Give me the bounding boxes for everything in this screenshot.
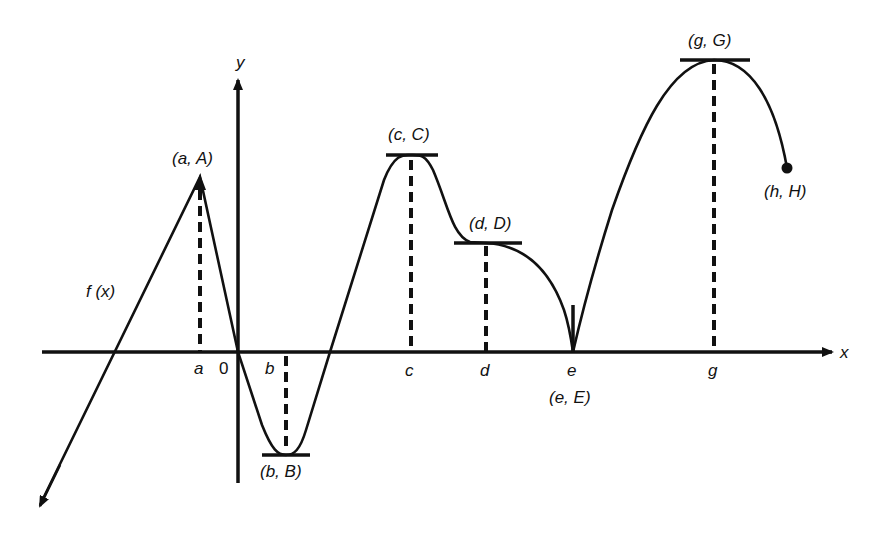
tick-label-e: e <box>567 361 576 380</box>
point-label-c: (c, C) <box>388 125 430 144</box>
tick-label-b: b <box>265 359 274 378</box>
peak-a-marker <box>194 174 206 190</box>
point-label-e: (e, E) <box>549 388 591 407</box>
function-label: f (x) <box>86 282 115 301</box>
curve-arrow-left <box>40 465 60 506</box>
x-axis-label: x <box>839 343 849 362</box>
point-label-a: (a, A) <box>172 149 213 168</box>
function-graph: y x 0 f (x) a b c d e g (a, A) (b, B) (c… <box>0 0 880 534</box>
tick-label-c: c <box>405 361 414 380</box>
drop-lines <box>200 64 714 452</box>
point-label-h: (h, H) <box>764 182 807 201</box>
tick-label-g: g <box>708 361 718 380</box>
point-label-g: (g, G) <box>688 31 731 50</box>
endpoint-h-dot <box>782 163 793 174</box>
point-label-d: (d, D) <box>469 214 512 233</box>
origin-label: 0 <box>219 359 228 378</box>
tick-label-a: a <box>194 359 203 378</box>
point-label-b: (b, B) <box>260 462 302 481</box>
y-axis-label: y <box>235 53 246 72</box>
tangent-lines <box>262 60 750 455</box>
tick-label-d: d <box>480 361 490 380</box>
diagram-canvas: y x 0 f (x) a b c d e g (a, A) (b, B) (c… <box>0 0 880 534</box>
